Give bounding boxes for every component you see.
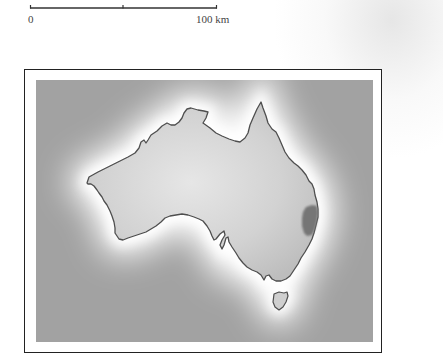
map-area bbox=[36, 80, 373, 342]
map-frame bbox=[24, 69, 382, 353]
scale-bar: 0 100 km bbox=[28, 0, 228, 28]
australia-map bbox=[36, 80, 373, 342]
scale-start-label: 0 bbox=[28, 13, 34, 25]
scale-end-label: 100 km bbox=[196, 13, 229, 25]
scale-bar-line bbox=[28, 0, 228, 14]
